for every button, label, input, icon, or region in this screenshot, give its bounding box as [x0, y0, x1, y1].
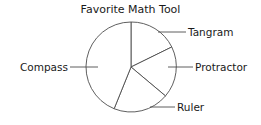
pie-wedges: [86, 22, 176, 112]
chart-title: Favorite Math Tool: [81, 3, 181, 16]
pie-chart-figure: Favorite Math Tool Tangram Protractor Ru…: [0, 0, 261, 125]
slice-label-ruler: Ruler: [177, 101, 205, 113]
slice-label-compass: Compass: [20, 61, 68, 73]
slice-label-tangram: Tangram: [187, 26, 233, 38]
slice-label-protractor: Protractor: [195, 61, 248, 73]
